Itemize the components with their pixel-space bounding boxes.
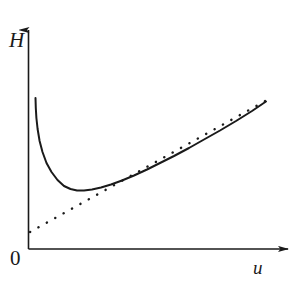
linear-asymptote-line (30, 100, 267, 232)
y-axis-label: H (9, 30, 24, 51)
plot-canvas (0, 0, 297, 285)
figure-container: H u 0 (0, 0, 297, 285)
x-axis-label: u (253, 258, 263, 277)
enthalpy-curve (36, 98, 267, 191)
origin-label: 0 (10, 248, 21, 269)
